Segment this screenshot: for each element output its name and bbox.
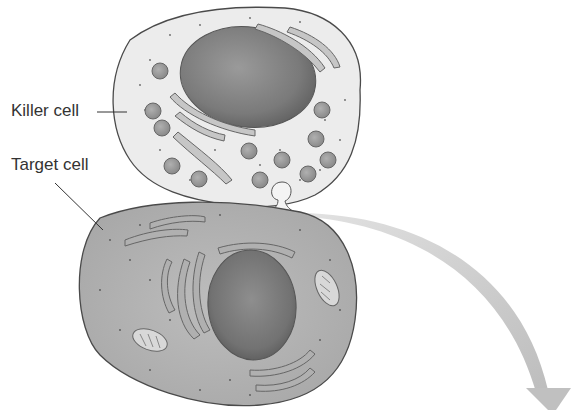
- diagram-canvas: [0, 0, 571, 410]
- target-cell-leader: [55, 183, 103, 230]
- target-cell-label: Target cell: [11, 155, 88, 175]
- killer-cell: [113, 7, 360, 212]
- killer-cell-label: Killer cell: [11, 101, 79, 121]
- target-cell: [79, 202, 356, 405]
